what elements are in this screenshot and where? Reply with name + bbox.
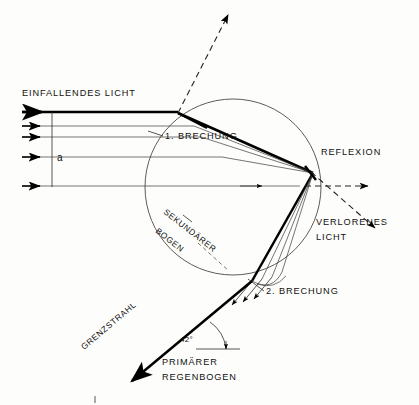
impact-parameter-label: a: [57, 152, 63, 163]
angle-value-label: 42°: [180, 335, 193, 344]
angle-annotation-group: 42°: [180, 322, 240, 349]
refracted-ray-4: [222, 157, 313, 173]
lost-light-label-line2: LICHT: [316, 232, 347, 242]
reflected-ray-4: [282, 173, 313, 272]
internally-reflected-rays: [252, 166, 316, 281]
diagram-canvas: a 1. BRECHUNG REFLEXION: [0, 0, 419, 405]
limit-ray-label: GRENZSTRAHL: [79, 300, 138, 352]
lost-light-label-line1: VERLORENES: [316, 217, 388, 227]
first-refraction-leader: [148, 131, 163, 136]
incident-light-label: EINFALLENDES LICHT: [22, 88, 136, 98]
partially-reflected-ray-at-entry: [178, 15, 228, 113]
rainbow-ray-diagram: a 1. BRECHUNG REFLEXION: [0, 0, 419, 405]
refracted-ray-3: [201, 137, 313, 173]
primary-rainbow-label-line2: REGENBOGEN: [162, 372, 237, 382]
first-refraction-label: 1. BRECHUNG: [165, 131, 238, 141]
primary-rainbow-label-line1: PRIMÄRER: [162, 357, 218, 367]
secondary-arc-label-line1: SEKUNDÄRER: [162, 207, 219, 254]
reflection-label: REFLEXION: [321, 147, 381, 157]
secondary-arc-annotation: SEKUNDÄRER BOGEN: [154, 207, 229, 271]
reflected-ray-2: [262, 173, 313, 279]
water-droplet-circle: [145, 99, 321, 275]
angle-arc: [210, 322, 226, 349]
reflected-ray-3: [272, 173, 313, 277]
second-refraction-label: 2. BRECHUNG: [266, 286, 339, 296]
reflected-ray-principal: [252, 173, 313, 281]
secondary-arc-label-line2: BOGEN: [154, 226, 186, 254]
